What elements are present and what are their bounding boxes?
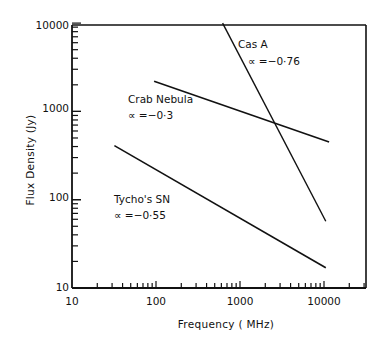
- x-tick-label-10: 10: [65, 295, 78, 307]
- x-tick-labels: 10 100 1000 10000: [65, 295, 340, 307]
- y-tick-label-100: 100: [49, 191, 69, 203]
- x-axis-title: Frequency ( MHz): [178, 318, 274, 330]
- annotations: Cas A ∝ =−0·76 Crab Nebula ∝ =−0·3 Tycho…: [113, 38, 300, 221]
- y-axis-title: Flux Density (Jy): [24, 114, 36, 205]
- x-axis-ticks: [97, 281, 364, 288]
- y-tick-label-10: 10: [56, 281, 69, 293]
- cas-a-label: Cas A: [238, 38, 269, 50]
- crab-nebula-label: Crab Nebula: [128, 93, 193, 105]
- spectrum-chart: 10 100 1000 10000 10000 1000 100 10 Freq…: [0, 0, 383, 344]
- x-tick-label-1000: 1000: [227, 295, 254, 307]
- crab-nebula-alpha: ∝ =−0·3: [128, 109, 173, 121]
- y-axis-ticks: [72, 23, 81, 261]
- tychos-sn-alpha: ∝ =−0·55: [114, 209, 166, 221]
- x-tick-label-100: 100: [146, 295, 166, 307]
- tychos-sn-label: Tycho's SN: [113, 193, 170, 205]
- plot-frame: [72, 25, 366, 288]
- crab-nebula-line: [154, 81, 329, 142]
- cas-a-alpha: ∝ =−0·76: [248, 55, 300, 67]
- y-tick-label-10000: 10000: [36, 19, 69, 31]
- y-tick-labels: 10000 1000 100 10: [36, 19, 69, 293]
- tychos-sn-line: [114, 146, 325, 268]
- x-tick-label-10000: 10000: [307, 295, 340, 307]
- y-tick-label-1000: 1000: [42, 102, 69, 114]
